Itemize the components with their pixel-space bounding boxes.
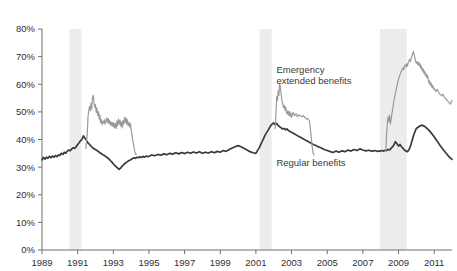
emergency-label-line1: Emergency xyxy=(276,64,324,75)
y-tick-label: 50% xyxy=(16,106,36,117)
recession-2001 xyxy=(260,29,272,250)
chart-figure: 0%10%20%30%40%50%60%70%80% 1989199119931… xyxy=(0,0,457,271)
x-tick-label: 2011 xyxy=(424,257,444,268)
x-tick-label: 1991 xyxy=(67,257,88,268)
x-tick-label: 2003 xyxy=(281,257,302,268)
x-tick-label: 1989 xyxy=(31,257,52,268)
y-tick-label: 10% xyxy=(16,217,36,228)
unemployment-benefits-line-chart: 0%10%20%30%40%50%60%70%80% 1989199119931… xyxy=(0,0,457,271)
x-tick-label: 2005 xyxy=(317,257,338,268)
series-line-emergency-extended-benefits xyxy=(275,84,314,155)
y-tick-label: 60% xyxy=(16,79,36,90)
recession-2007-2009 xyxy=(380,29,407,250)
x-tick-label: 1993 xyxy=(103,257,124,268)
x-axis-ticks-group: 1989199119931995199719992001200320052007… xyxy=(31,250,444,268)
y-tick-label: 0% xyxy=(21,244,35,255)
y-tick-label: 30% xyxy=(16,162,36,173)
regular-label: Regular benefits xyxy=(276,157,345,168)
x-tick-label: 2009 xyxy=(388,257,409,268)
y-tick-label: 40% xyxy=(16,134,36,145)
y-axis-ticks-group: 0%10%20%30%40%50%60%70%80% xyxy=(16,23,42,255)
x-tick-label: 2001 xyxy=(245,257,266,268)
emergency-label-line2: extended benefits xyxy=(276,75,351,86)
x-tick-label: 2007 xyxy=(352,257,373,268)
x-tick-label: 1997 xyxy=(174,257,195,268)
recession-bands-group xyxy=(69,29,406,250)
y-tick-label: 70% xyxy=(16,51,36,62)
x-tick-label: 1995 xyxy=(138,257,159,268)
y-tick-label: 80% xyxy=(16,23,36,34)
series-line-emergency-extended-benefits xyxy=(86,95,136,154)
x-tick-label: 1999 xyxy=(210,257,231,268)
recession-1990-1991 xyxy=(69,29,81,250)
y-tick-label: 20% xyxy=(16,189,36,200)
